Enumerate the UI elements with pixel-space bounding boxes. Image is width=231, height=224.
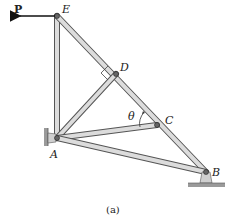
member-ab — [57, 138, 206, 172]
joint-c — [155, 123, 160, 128]
joint-e — [55, 14, 60, 19]
joint-a — [55, 136, 60, 141]
angle-label: θ — [128, 110, 135, 123]
joint-label-b: B — [211, 166, 220, 179]
joint-label-a: A — [49, 148, 58, 161]
joint-label-d: D — [119, 61, 129, 74]
member-ac — [57, 125, 157, 138]
joint-label-e: E — [61, 3, 70, 16]
truss-members — [57, 16, 206, 172]
member-eb — [57, 16, 206, 172]
load-label: P — [14, 3, 22, 16]
truss-diagram: P E D C A B θ (a) — [0, 0, 231, 224]
joint-label-c: C — [165, 114, 174, 127]
joint-d — [114, 72, 119, 77]
member-ad — [57, 74, 116, 138]
figure-caption: (a) — [106, 204, 120, 215]
joint-b — [204, 170, 209, 175]
